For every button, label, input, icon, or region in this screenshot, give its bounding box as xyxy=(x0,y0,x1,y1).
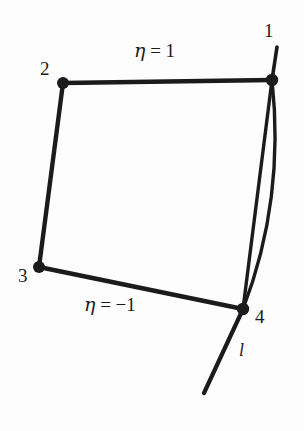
eta-equals-bottom: = xyxy=(95,294,115,315)
eta-symbol-top: η xyxy=(134,39,145,61)
node-label-1: 1 xyxy=(264,21,274,40)
edge-bottom-eta-negative xyxy=(39,267,243,309)
eta-value-top: 1 xyxy=(166,40,176,61)
eta-label-bottom: η = −1 xyxy=(84,295,136,314)
edge-left xyxy=(39,83,63,267)
edge-right-straight xyxy=(243,80,272,309)
eta-label-top: η = 1 xyxy=(134,41,175,60)
node-marker-3 xyxy=(33,261,45,273)
figure-canvas: 1 2 3 4 η = 1 η = −1 l xyxy=(0,0,304,431)
node-marker-4 xyxy=(237,303,249,315)
eta-symbol-bottom: η xyxy=(84,293,95,315)
line-l-lower-segment xyxy=(204,309,243,393)
edge-top-eta-positive xyxy=(63,80,272,83)
eta-value-bottom: −1 xyxy=(116,294,136,315)
node-marker-1 xyxy=(266,74,278,86)
eta-equals-top: = xyxy=(145,40,165,61)
node-label-2: 2 xyxy=(40,59,50,78)
node-marker-2 xyxy=(57,77,69,89)
line-l-label: l xyxy=(239,341,244,359)
node-label-4: 4 xyxy=(255,307,265,326)
node-label-3: 3 xyxy=(18,266,28,285)
